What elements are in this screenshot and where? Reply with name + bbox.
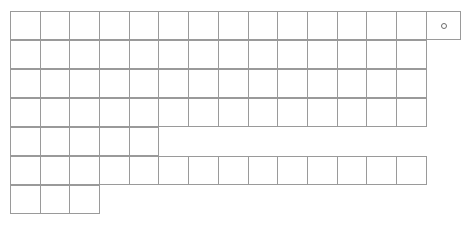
grid-cell-r2-c14[interactable] xyxy=(396,40,427,69)
grid-cell-r4-c5[interactable] xyxy=(129,98,160,127)
grid-cell-r1-c3[interactable] xyxy=(69,11,100,40)
grid-cell-r7-c1[interactable] xyxy=(10,185,41,214)
grid-cell-r1-c6[interactable] xyxy=(158,11,189,40)
grid-cell-r5-c2[interactable] xyxy=(40,127,71,156)
grid-cell-r4-c12[interactable] xyxy=(337,98,368,127)
row-2 xyxy=(10,40,426,69)
grid-cell-r3-c4[interactable] xyxy=(99,69,130,98)
circle-mark-icon xyxy=(441,23,447,29)
grid-cell-r1-c15[interactable] xyxy=(426,11,462,40)
row-3 xyxy=(10,69,426,98)
grid-cell-r2-c5[interactable] xyxy=(129,40,160,69)
grid-cell-r6-c11[interactable] xyxy=(307,156,338,185)
grid-cell-r5-c5[interactable] xyxy=(129,127,160,156)
row-4 xyxy=(10,98,426,127)
grid-cell-r2-c11[interactable] xyxy=(307,40,338,69)
row-7 xyxy=(10,185,99,214)
grid-cell-r4-c2[interactable] xyxy=(40,98,71,127)
grid-cell-r3-c1[interactable] xyxy=(10,69,41,98)
grid-cell-r2-c7[interactable] xyxy=(188,40,219,69)
grid-cell-r6-c6[interactable] xyxy=(158,156,189,185)
grid-cell-r2-c13[interactable] xyxy=(366,40,397,69)
grid-cell-r6-c2[interactable] xyxy=(40,156,71,185)
grid-cell-r3-c2[interactable] xyxy=(40,69,71,98)
grid-cell-r5-c3[interactable] xyxy=(69,127,100,156)
row-5 xyxy=(10,127,158,156)
grid-cell-r1-c10[interactable] xyxy=(277,11,308,40)
grid-cell-r3-c6[interactable] xyxy=(158,69,189,98)
grid-cell-r1-c8[interactable] xyxy=(218,11,249,40)
grid-cell-r6-c4[interactable] xyxy=(99,156,130,185)
row-6 xyxy=(10,156,426,185)
row-1 xyxy=(10,11,460,40)
grid-cell-r3-c11[interactable] xyxy=(307,69,338,98)
grid-cell-r6-c10[interactable] xyxy=(277,156,308,185)
grid-cell-r3-c10[interactable] xyxy=(277,69,308,98)
grid-cell-r3-c3[interactable] xyxy=(69,69,100,98)
grid-cell-r1-c1[interactable] xyxy=(10,11,41,40)
grid-cell-r1-c4[interactable] xyxy=(99,11,130,40)
grid-cell-r2-c10[interactable] xyxy=(277,40,308,69)
grid-cell-r4-c14[interactable] xyxy=(396,98,427,127)
grid-cell-r6-c5[interactable] xyxy=(129,156,160,185)
grid-cell-r1-c11[interactable] xyxy=(307,11,338,40)
grid-cell-r3-c13[interactable] xyxy=(366,69,397,98)
grid-cell-r2-c2[interactable] xyxy=(40,40,71,69)
grid-cell-r6-c7[interactable] xyxy=(188,156,219,185)
grid-cell-r1-c7[interactable] xyxy=(188,11,219,40)
grid-cell-r3-c14[interactable] xyxy=(396,69,427,98)
grid-cell-r3-c12[interactable] xyxy=(337,69,368,98)
grid-cell-r1-c5[interactable] xyxy=(129,11,160,40)
grid-cell-r6-c9[interactable] xyxy=(248,156,279,185)
grid-cell-r6-c3[interactable] xyxy=(69,156,100,185)
grid-cell-r5-c1[interactable] xyxy=(10,127,41,156)
grid-cell-r4-c10[interactable] xyxy=(277,98,308,127)
grid-cell-r4-c4[interactable] xyxy=(99,98,130,127)
grid-canvas xyxy=(0,0,475,227)
grid-cell-r6-c1[interactable] xyxy=(10,156,41,185)
grid-cell-r4-c3[interactable] xyxy=(69,98,100,127)
grid-cell-r2-c1[interactable] xyxy=(10,40,41,69)
grid-cell-r1-c13[interactable] xyxy=(366,11,397,40)
grid-cell-r2-c12[interactable] xyxy=(337,40,368,69)
grid-cell-r6-c12[interactable] xyxy=(337,156,368,185)
grid-cell-r1-c12[interactable] xyxy=(337,11,368,40)
grid-cell-r4-c13[interactable] xyxy=(366,98,397,127)
grid-cell-r2-c6[interactable] xyxy=(158,40,189,69)
grid-cell-r6-c8[interactable] xyxy=(218,156,249,185)
grid-cell-r1-c2[interactable] xyxy=(40,11,71,40)
grid-cell-r3-c8[interactable] xyxy=(218,69,249,98)
grid-cell-r6-c14[interactable] xyxy=(396,156,427,185)
grid-cell-r2-c3[interactable] xyxy=(69,40,100,69)
grid-cell-r4-c7[interactable] xyxy=(188,98,219,127)
grid-cell-r4-c11[interactable] xyxy=(307,98,338,127)
grid-cell-r4-c6[interactable] xyxy=(158,98,189,127)
grid-cell-r5-c4[interactable] xyxy=(99,127,130,156)
grid-cell-r2-c9[interactable] xyxy=(248,40,279,69)
grid-cell-r4-c9[interactable] xyxy=(248,98,279,127)
grid-cell-r6-c13[interactable] xyxy=(366,156,397,185)
grid-cell-r4-c1[interactable] xyxy=(10,98,41,127)
grid-cell-r1-c14[interactable] xyxy=(396,11,427,40)
grid-cell-r7-c3[interactable] xyxy=(69,185,100,214)
grid-cell-r3-c7[interactable] xyxy=(188,69,219,98)
grid-cell-r3-c9[interactable] xyxy=(248,69,279,98)
grid-cell-r4-c8[interactable] xyxy=(218,98,249,127)
grid-cell-r2-c8[interactable] xyxy=(218,40,249,69)
grid-cell-r3-c5[interactable] xyxy=(129,69,160,98)
grid-cell-r1-c9[interactable] xyxy=(248,11,279,40)
grid-cell-r2-c4[interactable] xyxy=(99,40,130,69)
grid-cell-r7-c2[interactable] xyxy=(40,185,71,214)
